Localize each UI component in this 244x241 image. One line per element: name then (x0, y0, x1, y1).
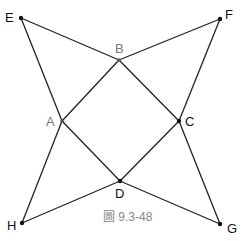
point-E (19, 16, 23, 20)
label-F: F (225, 7, 233, 22)
figure-caption: 圖 9.3-48 (103, 210, 153, 224)
point-A (60, 119, 64, 123)
point-F (218, 17, 222, 21)
segment-AH (22, 121, 62, 223)
label-C: C (185, 114, 194, 129)
segment-FC (179, 19, 220, 121)
geometry-diagram: E F B A C D H G 圖 9.3-48 (0, 0, 244, 241)
label-D: D (115, 186, 124, 201)
segment-DC (120, 121, 179, 181)
label-G: G (227, 221, 237, 236)
label-H: H (7, 218, 16, 233)
point-H (20, 221, 24, 225)
segment-AD (62, 121, 120, 181)
segment-BC (119, 60, 179, 121)
label-E: E (5, 10, 14, 25)
label-A: A (46, 114, 55, 129)
labels: E F B A C D H G (5, 7, 237, 236)
point-B (117, 58, 121, 62)
segment-AB (62, 60, 119, 121)
point-C (177, 119, 181, 123)
label-B: B (115, 41, 124, 56)
segment-BF (119, 19, 220, 60)
point-G (218, 222, 222, 226)
point-D (118, 179, 122, 183)
